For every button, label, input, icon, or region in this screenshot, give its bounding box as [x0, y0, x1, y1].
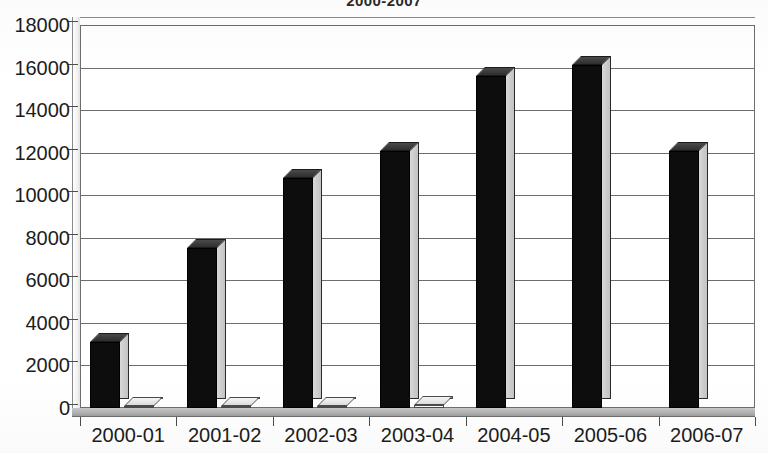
bar [414, 405, 444, 408]
bar-front-face [476, 76, 506, 408]
x-axis-tick-label: 2004-05 [466, 424, 562, 446]
x-axis-tick-label: 2000-01 [80, 424, 176, 446]
plot-depth-left [72, 17, 80, 408]
bar-side-face [217, 239, 226, 399]
bar [283, 178, 313, 408]
bar-side-face [313, 169, 322, 399]
y-axis-tick-label: 4000 [26, 313, 71, 333]
bar-front-face [124, 406, 154, 408]
bar-side-face [699, 142, 708, 399]
x-axis-tick-mark [755, 417, 756, 426]
plot-depth-top [72, 17, 755, 25]
bar-side-face [410, 142, 419, 399]
x-axis-tick-label: 2006-07 [659, 424, 755, 446]
bar [669, 151, 699, 408]
y-axis-tick-label: 14000 [14, 100, 70, 120]
bar [572, 65, 602, 408]
bar-front-face [187, 248, 217, 408]
bar-side-face [506, 67, 515, 399]
bar-front-face [221, 406, 251, 408]
gridline [80, 110, 755, 111]
chart-title: 2000-2007 [0, 0, 768, 9]
y-axis-tick-label: 0 [59, 398, 70, 418]
y-axis-line [80, 25, 81, 409]
bar [380, 151, 410, 408]
bar [476, 76, 506, 408]
y-axis-tick-label: 16000 [14, 58, 70, 78]
y-axis-tick-label: 2000 [26, 355, 71, 375]
x-axis-tick-label: 2003-04 [369, 424, 465, 446]
bar-chart: 2000-2007 020004000600080001000012000140… [0, 0, 768, 453]
x-axis-tick-label: 2002-03 [273, 424, 369, 446]
bar-front-face [669, 151, 699, 408]
bar [317, 406, 347, 408]
bar [187, 248, 217, 408]
bar-front-face [414, 405, 444, 408]
bar [221, 406, 251, 408]
bar-front-face [572, 65, 602, 408]
bar [90, 342, 120, 408]
gridline [80, 25, 755, 26]
bar-front-face [90, 342, 120, 408]
y-axis-tick-label: 10000 [14, 185, 70, 205]
x-axis-tick-label: 2005-06 [562, 424, 658, 446]
bar-side-face [120, 333, 129, 399]
bar-side-face [602, 56, 611, 399]
plot-floor [72, 408, 755, 417]
bar-front-face [380, 151, 410, 408]
y-axis-tick-label: 18000 [14, 15, 70, 35]
y-axis-tick-label: 12000 [14, 143, 70, 163]
bar [124, 406, 154, 408]
x-axis-tick-label: 2001-02 [176, 424, 272, 446]
y-axis-tick-label: 8000 [26, 228, 71, 248]
gridline [80, 68, 755, 69]
bar-front-face [283, 178, 313, 408]
y-axis-tick-label: 6000 [26, 270, 71, 290]
bar-front-face [317, 406, 347, 408]
